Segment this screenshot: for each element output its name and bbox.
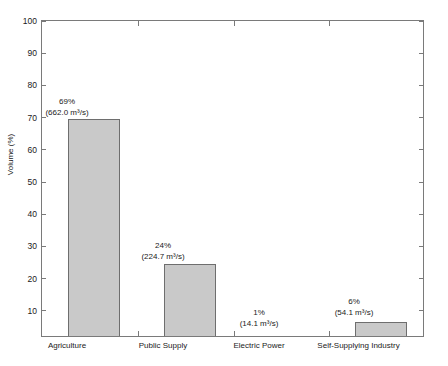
bar-value-label-electric-power: 1% (14.1 m³/s) bbox=[214, 307, 304, 329]
bar-flow-public-supply: (224.7 m³/s) bbox=[118, 251, 208, 262]
x-axis-label-agriculture: Agriculture bbox=[22, 341, 112, 350]
y-tick-mark-right bbox=[419, 53, 423, 54]
y-tick-mark bbox=[42, 85, 46, 86]
bar-percent-electric-power: 1% bbox=[214, 307, 304, 318]
y-tick-label: 80 bbox=[28, 79, 37, 91]
plot-area: 100 90 80 70 60 50 4 bbox=[41, 20, 424, 337]
x-tick-bottom-2 bbox=[234, 331, 235, 336]
y-tick-mark bbox=[42, 246, 46, 247]
x-axis-label-electric-power: Electric Power bbox=[214, 341, 304, 350]
y-tick-label: 20 bbox=[28, 273, 37, 285]
y-tick-mark bbox=[42, 53, 46, 54]
y-tick-mark-right bbox=[419, 214, 423, 215]
y-tick-mark-right bbox=[419, 149, 423, 150]
y-tick-mark-right bbox=[419, 278, 423, 279]
bar-flow-self-supplying-industry: (54.1 m³/s) bbox=[309, 307, 399, 318]
y-tick-mark-right bbox=[419, 117, 423, 118]
y-tick-label: 90 bbox=[28, 47, 37, 59]
y-tick-mark-right bbox=[419, 246, 423, 247]
bar-percent-public-supply: 24% bbox=[118, 240, 208, 251]
y-tick-mark bbox=[42, 310, 46, 311]
bar-agriculture bbox=[68, 119, 120, 336]
x-axis-label-self-supplying-industry: Self-Supplying Industry bbox=[296, 341, 421, 350]
bar-flow-electric-power: (14.1 m³/s) bbox=[214, 318, 304, 329]
y-tick-mark bbox=[42, 214, 46, 215]
x-tick-top-3 bbox=[329, 21, 330, 26]
y-tick-mark bbox=[42, 278, 46, 279]
y-tick-label: 50 bbox=[28, 176, 37, 188]
bar-value-label-public-supply: 24% (224.7 m³/s) bbox=[118, 240, 208, 262]
x-tick-bottom-3 bbox=[329, 331, 330, 336]
bar-value-label-agriculture: 69% (662.0 m³/s) bbox=[22, 96, 112, 118]
y-tick-mark-right bbox=[419, 85, 423, 86]
y-tick-mark bbox=[42, 21, 46, 22]
y-tick-mark bbox=[42, 182, 46, 183]
bar-flow-agriculture: (662.0 m³/s) bbox=[22, 107, 112, 118]
y-tick-mark-right bbox=[419, 310, 423, 311]
y-tick-label: 30 bbox=[28, 240, 37, 252]
y-tick-mark-right bbox=[419, 21, 423, 22]
bar-value-label-self-supplying-industry: 6% (54.1 m³/s) bbox=[309, 296, 399, 318]
bar-chart: Volume (%) 100 90 80 70 60 bbox=[0, 0, 448, 366]
y-tick-label: 40 bbox=[28, 208, 37, 220]
x-axis-label-public-supply: Public Supply bbox=[118, 341, 208, 350]
y-tick-label: 100 bbox=[23, 15, 37, 27]
bar-public-supply bbox=[164, 264, 216, 336]
bar-percent-agriculture: 69% bbox=[22, 96, 112, 107]
y-tick-mark bbox=[42, 149, 46, 150]
bar-self-supplying-industry bbox=[355, 322, 407, 337]
y-axis-title: Volume (%) bbox=[6, 115, 15, 195]
x-tick-top-1 bbox=[138, 21, 139, 26]
y-tick-label: 60 bbox=[28, 144, 37, 156]
x-tick-bottom-1 bbox=[138, 331, 139, 336]
y-tick-label: 10 bbox=[28, 305, 37, 317]
y-tick-mark-right bbox=[419, 182, 423, 183]
bar-percent-self-supplying-industry: 6% bbox=[309, 296, 399, 307]
x-tick-top-2 bbox=[234, 21, 235, 26]
